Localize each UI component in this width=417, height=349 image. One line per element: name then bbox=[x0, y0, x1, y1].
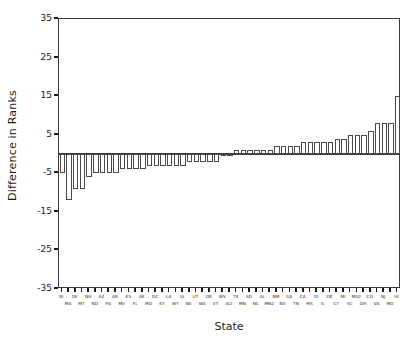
bar bbox=[66, 154, 71, 200]
x-tick-mark bbox=[215, 288, 217, 292]
bar bbox=[328, 142, 333, 154]
x-tick-label: VT bbox=[213, 301, 219, 306]
x-tick-label: TN bbox=[293, 301, 299, 306]
bar bbox=[361, 135, 366, 154]
bar bbox=[113, 154, 118, 173]
bar bbox=[154, 154, 159, 166]
bar bbox=[93, 154, 98, 173]
x-tick-label: DC bbox=[152, 294, 158, 299]
x-tick-label: SC bbox=[347, 301, 353, 306]
y-tick-label: 25 bbox=[41, 52, 52, 61]
x-tick-mark bbox=[67, 288, 69, 292]
x-tick-mark bbox=[389, 288, 391, 292]
x-tick-mark bbox=[148, 288, 150, 292]
x-tick-mark bbox=[242, 288, 244, 292]
x-tick-mark bbox=[128, 288, 130, 292]
bar bbox=[200, 154, 205, 162]
x-tick-mark bbox=[396, 288, 398, 292]
bar bbox=[268, 150, 273, 154]
x-tick-label: WY bbox=[172, 301, 179, 306]
x-tick-label: CO bbox=[367, 294, 373, 299]
x-tick-label: PA bbox=[106, 301, 111, 306]
bar-chart-figure: Difference in Ranks 3525155-5-15-25-35 R… bbox=[0, 0, 417, 349]
bar bbox=[194, 154, 199, 162]
x-tick-mark bbox=[282, 288, 284, 292]
x-tick-mark bbox=[107, 288, 109, 292]
x-tick-label: MA bbox=[65, 301, 72, 306]
x-tick-mark bbox=[188, 288, 190, 292]
x-tick-mark bbox=[141, 288, 143, 292]
x-tick-label: UT bbox=[193, 294, 199, 299]
bar bbox=[227, 154, 232, 156]
x-tick-mark bbox=[221, 288, 223, 292]
x-tick-mark bbox=[114, 288, 116, 292]
y-tick-label: -15 bbox=[37, 206, 52, 215]
x-tick-mark bbox=[342, 288, 344, 292]
plot-area bbox=[58, 18, 400, 288]
x-tick-label: NM bbox=[272, 294, 279, 299]
bar bbox=[207, 154, 212, 162]
y-tick-label: 15 bbox=[41, 91, 52, 100]
bar bbox=[395, 96, 400, 154]
x-tick-label: MN bbox=[239, 301, 246, 306]
x-tick-mark bbox=[329, 288, 331, 292]
y-tick-label: -25 bbox=[37, 245, 52, 254]
x-tick-mark bbox=[356, 288, 358, 292]
x-tick-mark bbox=[134, 288, 136, 292]
x-tick-label: MO bbox=[145, 301, 152, 306]
x-tick-mark bbox=[315, 288, 317, 292]
x-tick-mark bbox=[289, 288, 291, 292]
bar bbox=[73, 154, 78, 189]
x-tick-mark bbox=[121, 288, 123, 292]
x-tick-label: NJ bbox=[381, 294, 386, 299]
x-tick-label: RI bbox=[59, 294, 63, 299]
x-tick-mark bbox=[322, 288, 324, 292]
x-tick-label: FL bbox=[133, 301, 138, 306]
x-tick-label: MI bbox=[340, 294, 345, 299]
x-tick-label: AK bbox=[139, 294, 145, 299]
x-tick-label: TX bbox=[233, 294, 239, 299]
x-tick-mark bbox=[369, 288, 371, 292]
bar bbox=[80, 154, 85, 189]
y-tick-label: -5 bbox=[43, 168, 52, 177]
x-tick-mark bbox=[376, 288, 378, 292]
x-tick-label: LA bbox=[166, 294, 172, 299]
x-tick-label: WA bbox=[199, 301, 206, 306]
x-tick-label: HI bbox=[394, 294, 399, 299]
x-tick-label: AL bbox=[260, 294, 265, 299]
bar bbox=[274, 146, 279, 154]
x-tick-mark bbox=[309, 288, 311, 292]
x-tick-label: WV bbox=[219, 294, 226, 299]
bar bbox=[375, 123, 380, 154]
bar bbox=[321, 142, 326, 154]
x-tick-mark bbox=[168, 288, 170, 292]
x-tick-mark bbox=[362, 288, 364, 292]
bar bbox=[100, 154, 105, 173]
x-tick-label: ND bbox=[92, 301, 99, 306]
bar bbox=[234, 150, 239, 154]
x-tick-label: MD bbox=[386, 301, 393, 306]
bar bbox=[147, 154, 152, 166]
x-tick-label: NC bbox=[253, 301, 259, 306]
bar bbox=[214, 154, 219, 162]
bar bbox=[180, 154, 185, 166]
bar bbox=[335, 139, 340, 154]
x-tick-label: IL bbox=[321, 301, 325, 306]
bar bbox=[127, 154, 132, 169]
bar bbox=[294, 146, 299, 154]
x-tick-mark bbox=[295, 288, 297, 292]
x-tick-mark bbox=[302, 288, 304, 292]
bar bbox=[261, 150, 266, 154]
x-axis-title: State bbox=[58, 320, 400, 333]
x-tick-mark bbox=[248, 288, 250, 292]
bar bbox=[133, 154, 138, 169]
bar bbox=[241, 150, 246, 154]
x-tick-label: IA2 bbox=[225, 301, 232, 306]
y-tick-label: 5 bbox=[46, 129, 52, 138]
bar bbox=[355, 135, 360, 154]
x-tick-mark bbox=[335, 288, 337, 292]
x-tick-mark bbox=[262, 288, 264, 292]
x-tick-label: KY bbox=[159, 301, 164, 306]
x-axis-tick-labels: RIMADEMTNHNDAZPAARMEKSFLAKMODCKYLAWYIANE… bbox=[58, 294, 400, 314]
x-tick-label: MN2 bbox=[264, 301, 274, 306]
